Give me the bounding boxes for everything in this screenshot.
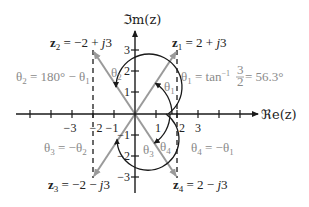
equation-theta4: θ4 = −θ1 — [191, 140, 234, 157]
angle-label-theta4: θ4 — [160, 139, 171, 156]
angle-label-theta1: θ1 — [164, 79, 175, 96]
equation-theta2: θ2 = 180° − θ1 — [16, 69, 90, 86]
svg-text:3: 3 — [124, 43, 130, 57]
equation-theta1-rhs: = 56.3° — [245, 69, 284, 84]
real-tick-labels: −3 −2 −1 1 2 3 — [64, 121, 201, 135]
svg-text:−2: −2 — [90, 121, 103, 135]
svg-text:1: 1 — [155, 121, 161, 135]
angle-label-theta2: θ2 — [111, 65, 122, 82]
svg-text:1: 1 — [124, 85, 130, 99]
real-axis-label: ℜe(z) — [261, 107, 297, 122]
label-z4: z4 = 2 − j3 — [173, 177, 228, 194]
label-z2: z2 = −2 + j3 — [50, 35, 112, 52]
svg-text:2: 2 — [124, 64, 130, 78]
svg-text:−3: −3 — [64, 121, 77, 135]
equation-theta1-fraction-den: 2 — [237, 74, 244, 89]
svg-text:2: 2 — [179, 121, 185, 135]
imag-axis-label: ℑm(z) — [123, 12, 161, 27]
label-z3: z3 = −2 − j3 — [48, 177, 110, 194]
svg-text:−2: −2 — [117, 149, 130, 163]
svg-text:−1: −1 — [117, 128, 130, 142]
equation-theta3: θ3 = −θ2 — [44, 140, 87, 157]
label-z1: z1 = 2 + j3 — [172, 35, 227, 52]
complex-plane-diagram: ℑm(z) ℜe(z) −3 −2 −1 1 2 3 3 2 1 −1 −2 −… — [0, 0, 309, 207]
angle-label-theta3: θ3 — [143, 142, 154, 159]
svg-text:−3: −3 — [117, 170, 130, 184]
svg-text:3: 3 — [195, 121, 201, 135]
equation-theta1: θ1 = tan−1 — [181, 69, 230, 86]
